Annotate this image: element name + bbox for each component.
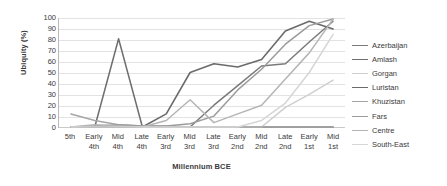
legend-item-amlash[interactable]: Amlash <box>352 52 447 66</box>
x-tick-line-1: Mid <box>106 132 130 142</box>
legend-line-icon <box>352 59 368 60</box>
x-tick-line-2: 3rd <box>178 142 202 152</box>
x-tick-line-1: Early <box>225 132 249 142</box>
x-tick-line-2: 2nd <box>273 142 297 152</box>
y-axis-tick-label: 20 <box>32 102 56 110</box>
x-tick-line-1: Early <box>154 132 178 142</box>
x-axis-tick-label: Mid3rd <box>178 132 202 151</box>
legend-line-icon <box>352 87 368 88</box>
x-axis-tick-label: Late2nd <box>273 132 297 151</box>
y-axis-tick-label: 60 <box>32 58 56 66</box>
x-axis-tick-label: Early3rd <box>154 132 178 151</box>
x-axis-tick-label: Early2nd <box>225 132 249 151</box>
x-tick-line-2: 1st <box>321 142 345 152</box>
legend-item-label: Khuzistan <box>372 97 405 106</box>
x-axis-tick-label: Mid4th <box>106 132 130 151</box>
legend-item-label: Amlash <box>372 55 397 64</box>
legend-item-label: Gorgan <box>372 69 397 78</box>
x-axis-tick-label: Late3rd <box>202 132 226 151</box>
legend-line-icon <box>352 73 368 74</box>
x-tick-line-2: 3rd <box>154 142 178 152</box>
legend-item-label: Luristan <box>372 83 399 92</box>
x-tick-line-1: Early <box>297 132 321 142</box>
x-axis-tick-label: Late4th <box>130 132 154 151</box>
y-axis-title: Ubiquity (%) <box>19 8 28 98</box>
legend-item-luristan[interactable]: Luristan <box>352 81 447 95</box>
x-axis-tick-label: 5th <box>58 132 82 142</box>
x-tick-line-1: Late <box>130 132 154 142</box>
x-axis-tick-label: Early4th <box>82 132 106 151</box>
y-axis-tick-label: 30 <box>32 91 56 99</box>
legend-item-label: Fars <box>372 112 387 121</box>
legend-line-icon <box>352 144 368 145</box>
series-line-south-east <box>71 34 333 127</box>
x-tick-line-1: Mid <box>321 132 345 142</box>
y-axis-tick-labels: 1009080706050403020100 <box>32 14 56 130</box>
series-line-amlash <box>71 39 333 127</box>
x-axis-tick-labels: 5thEarly4thMid4thLate4thEarly3rdMid3rdLa… <box>58 132 345 158</box>
x-tick-line-1: 5th <box>58 132 82 142</box>
y-axis-tick-label: 90 <box>32 25 56 33</box>
legend-item-centre[interactable]: Centre <box>352 123 447 137</box>
legend-item-label: Azerbaijan <box>372 41 407 50</box>
x-tick-line-1: Mid <box>249 132 273 142</box>
x-tick-line-1: Late <box>202 132 226 142</box>
y-axis-tick-label: 100 <box>32 14 56 22</box>
x-tick-line-1: Late <box>273 132 297 142</box>
legend-line-icon <box>352 116 368 117</box>
x-tick-line-2: 1st <box>297 142 321 152</box>
legend-item-label: Centre <box>372 126 395 135</box>
x-tick-line-2: 2nd <box>225 142 249 152</box>
plot-area <box>58 18 345 128</box>
x-tick-line-2: 4th <box>106 142 130 152</box>
x-axis-tick-label: Mid2nd <box>249 132 273 151</box>
legend-item-label: South-East <box>372 140 409 149</box>
legend-item-south-east[interactable]: South-East <box>352 137 447 151</box>
x-tick-line-1: Mid <box>178 132 202 142</box>
series-line-centre <box>71 19 333 127</box>
y-axis-tick-label: 0 <box>32 124 56 132</box>
x-tick-line-2: 4th <box>130 142 154 152</box>
x-tick-line-1: Early <box>82 132 106 142</box>
x-axis-title: Millennium BCE <box>58 162 345 171</box>
y-axis-tick-label: 10 <box>32 113 56 121</box>
legend-line-icon <box>352 101 368 102</box>
y-axis-tick-label: 80 <box>32 36 56 44</box>
series-lines <box>59 18 345 127</box>
legend: AzerbaijanAmlashGorganLuristanKhuzistanF… <box>352 38 447 152</box>
legend-line-icon <box>352 130 368 131</box>
legend-item-khuzistan[interactable]: Khuzistan <box>352 95 447 109</box>
y-axis-tick-label: 50 <box>32 69 56 77</box>
x-axis-tick-label: Early1st <box>297 132 321 151</box>
legend-item-azerbaijan[interactable]: Azerbaijan <box>352 38 447 52</box>
y-axis-tick-label: 70 <box>32 47 56 55</box>
x-tick-line-2: 2nd <box>249 142 273 152</box>
legend-item-gorgan[interactable]: Gorgan <box>352 66 447 80</box>
legend-item-fars[interactable]: Fars <box>352 109 447 123</box>
x-axis-tick-label: Mid1st <box>321 132 345 151</box>
legend-line-icon <box>352 45 368 46</box>
y-axis-tick-label: 40 <box>32 80 56 88</box>
line-chart: Ubiquity (%) 1009080706050403020100 5thE… <box>0 0 447 186</box>
x-tick-line-2: 4th <box>82 142 106 152</box>
x-tick-line-2: 3rd <box>202 142 226 152</box>
